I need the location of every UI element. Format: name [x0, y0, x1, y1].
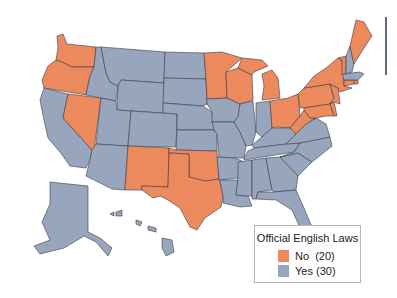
state-nd [164, 52, 206, 79]
state-co [128, 111, 177, 147]
state-nm [125, 146, 169, 190]
state-ri [354, 80, 358, 84]
state-hi [110, 210, 174, 256]
state-mt [101, 47, 165, 86]
legend-entry-no: No (20) [278, 249, 335, 263]
legend-title: Official English Laws [255, 232, 360, 244]
legend-swatch-yes [278, 265, 289, 277]
divider-line [385, 17, 387, 75]
legend-label-no: No (20) [295, 250, 335, 262]
state-me [350, 20, 372, 64]
state-az [86, 144, 128, 190]
legend-swatch-no [278, 250, 289, 262]
legend-label-yes: Yes (30) [295, 265, 336, 277]
legend: Official English Laws No (20) Yes (30) [254, 225, 361, 283]
state-ak [34, 182, 112, 256]
state-wy [117, 80, 164, 113]
state-sd [163, 78, 207, 106]
state-ks [176, 130, 217, 151]
state-ms [236, 160, 252, 196]
legend-entry-yes: Yes (30) [278, 264, 336, 278]
